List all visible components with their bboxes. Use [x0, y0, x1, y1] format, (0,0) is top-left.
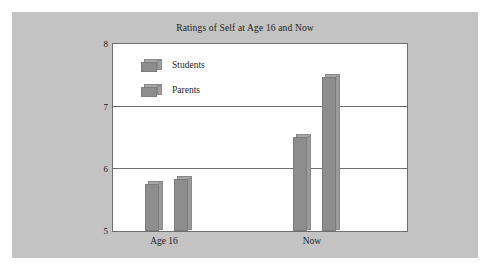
gridline-6	[113, 168, 407, 169]
y-tick-label-7: 7	[84, 102, 108, 112]
x-tick-label-age16: Age 16	[150, 236, 178, 246]
y-tick-label-5: 5	[84, 226, 108, 236]
chart-figure: Ratings of Self at Age 16 and Now 8 7 6 …	[0, 0, 495, 270]
legend-label-parents: Parents	[172, 85, 200, 95]
legend-label-students: Students	[172, 60, 205, 70]
bar-swatch-icon	[141, 84, 163, 97]
x-tick-label-now: Now	[303, 236, 321, 246]
legend-item-students: Students	[141, 58, 205, 72]
y-axis: 8 7 6 5	[80, 43, 108, 232]
legend-item-parents: Parents	[141, 83, 205, 97]
plot-area: Students Parents	[112, 43, 408, 232]
chart-card: Ratings of Self at Age 16 and Now 8 7 6 …	[12, 12, 478, 258]
bar-swatch-icon	[141, 59, 163, 72]
legend: Students Parents	[141, 58, 205, 108]
y-tick-label-6: 6	[84, 164, 108, 174]
chart-title: Ratings of Self at Age 16 and Now	[12, 23, 478, 33]
y-tick-label-8: 8	[84, 39, 108, 49]
